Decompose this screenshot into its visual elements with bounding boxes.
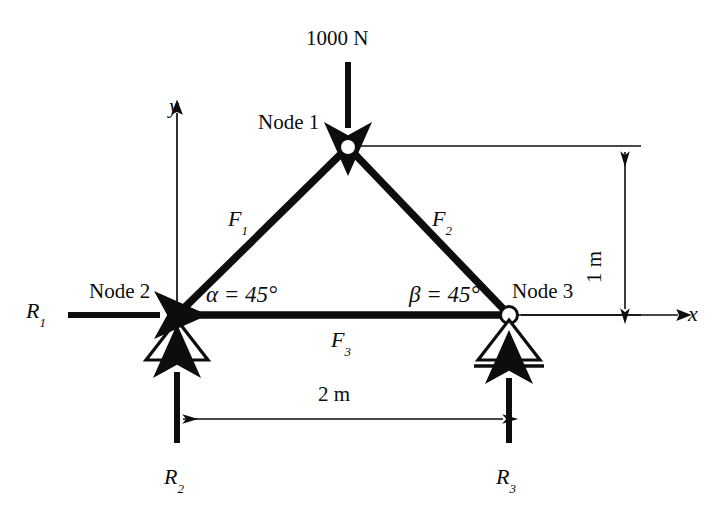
roller-support-node3 bbox=[474, 320, 544, 366]
x-axis-label: x bbox=[688, 303, 698, 325]
node3-label: Node 3 bbox=[512, 281, 573, 302]
member-F3-subscript: 3 bbox=[344, 344, 351, 359]
reaction-R1-symbol: R bbox=[26, 298, 39, 323]
reaction-R3-symbol: R bbox=[496, 464, 509, 489]
reaction-R1-subscript: 1 bbox=[39, 315, 46, 330]
node2-label: Node 2 bbox=[89, 281, 150, 302]
member-F1-label: F1 bbox=[228, 208, 248, 233]
member-F3-symbol: F bbox=[331, 327, 344, 352]
dimension-2m-label: 2 m bbox=[318, 384, 350, 405]
applied-load-label: 1000 N bbox=[306, 28, 368, 49]
angle-alpha-label: α = 45° bbox=[206, 283, 277, 306]
member-F1-symbol: F bbox=[228, 206, 241, 231]
y-axis-label: y bbox=[169, 95, 179, 117]
reaction-R3-label: R3 bbox=[496, 466, 516, 491]
figure-canvas bbox=[0, 0, 718, 510]
truss-diagram-figure: 1000 N y x Node 1 Node 2 Node 3 F1 F2 F3… bbox=[0, 0, 718, 510]
node1-label: Node 1 bbox=[258, 112, 319, 133]
pin-support-node2 bbox=[146, 320, 208, 360]
reaction-R1-label: R1 bbox=[26, 300, 46, 325]
member-F3-label: F3 bbox=[331, 329, 351, 354]
node1-marker bbox=[340, 139, 357, 156]
member-F2-label: F2 bbox=[432, 208, 452, 233]
reaction-R2-label: R2 bbox=[164, 466, 184, 491]
reaction-R2-subscript: 2 bbox=[177, 481, 184, 496]
member-F2-subscript: 2 bbox=[445, 223, 452, 238]
reaction-R3-subscript: 3 bbox=[509, 481, 516, 496]
member-F2-symbol: F bbox=[432, 206, 445, 231]
dimension-1m-label: 1 m bbox=[584, 251, 605, 283]
dimension-extension-lines bbox=[360, 146, 641, 315]
reaction-R2-symbol: R bbox=[164, 464, 177, 489]
angle-beta-label: β = 45° bbox=[409, 283, 480, 306]
member-F1-subscript: 1 bbox=[241, 223, 248, 238]
